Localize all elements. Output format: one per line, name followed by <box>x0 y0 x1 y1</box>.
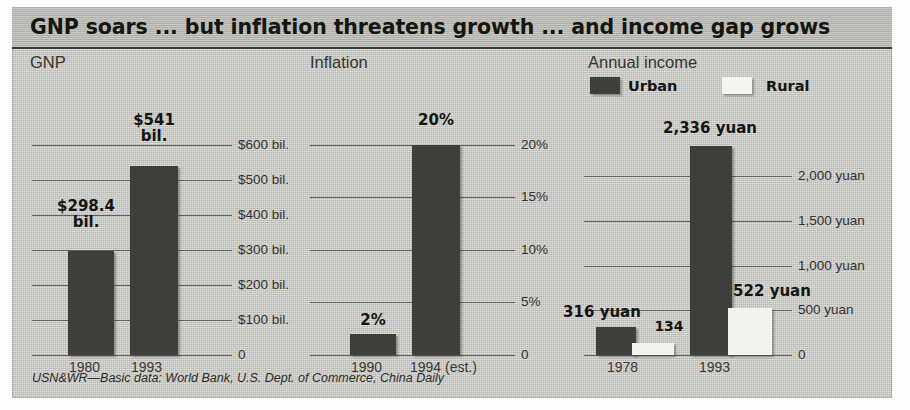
ticklabel-gnp-500: $500 bil. <box>238 172 289 187</box>
value-label-gnp-1993: $541 bil. <box>108 113 200 144</box>
infographic: GNP soars ... but inflation threatens gr… <box>0 0 910 410</box>
chart-inflation: Inflation 20% 15% 10% 5% 0 2% 20% 1990 <box>292 51 592 381</box>
bar-gnp-1980 <box>68 251 114 355</box>
ticklabel-income-2000: 2,000 yuan <box>798 168 865 183</box>
bar-income-1993-urban <box>690 146 732 355</box>
value-label-gnp-1980: $298.4 bil. <box>34 199 138 230</box>
value-label-gnp-1993-line2: bil. <box>141 127 168 145</box>
ticklabel-gnp-300: $300 bil. <box>238 242 289 257</box>
gridline-1500yuan <box>584 221 792 222</box>
gridline-1000yuan <box>584 266 792 267</box>
gridline-0pct <box>310 355 515 356</box>
source-credit: USN&WR—Basic data: World Bank, U.S. Dept… <box>32 371 444 385</box>
xlabel-income-1978: 1978 <box>607 359 638 375</box>
chart-inflation-plot: 20% 15% 10% 5% 0 2% 20% 1990 1994 (est.) <box>292 51 592 381</box>
bar-income-1993-rural <box>728 308 772 355</box>
ticklabel-gnp-100: $100 bil. <box>238 312 289 327</box>
chart-annual-income-plot: 2,000 yuan 1,500 yuan 1,000 yuan 500 yua… <box>572 51 892 381</box>
ticklabel-gnp-0: 0 <box>238 347 246 362</box>
ticklabel-inflation-0: 0 <box>521 347 529 362</box>
ticklabel-income-500: 500 yuan <box>798 302 854 317</box>
ticklabel-income-1500: 1,500 yuan <box>798 213 865 228</box>
chart-gnp-plot: $600 bil. $500 bil. $400 bil. $300 bil. … <box>12 51 302 381</box>
chart-annual-income: Annual income Urban Rural 2,000 yuan 1,5… <box>572 51 892 381</box>
value-label-income-1978-rural: 134 <box>646 319 692 334</box>
ticklabel-gnp-200: $200 bil. <box>238 277 289 292</box>
value-label-inflation-1990: 2% <box>350 313 396 329</box>
value-label-income-1978-urban: 316 yuan <box>556 305 648 321</box>
ticklabel-gnp-400: $400 bil. <box>238 207 289 222</box>
headline: GNP soars ... but inflation threatens gr… <box>30 15 880 39</box>
infographic-panel: GNP soars ... but inflation threatens gr… <box>12 7 892 398</box>
value-label-gnp-1980-line2: bil. <box>73 213 100 231</box>
bar-income-1978-rural <box>632 343 674 355</box>
gridline-0yuan <box>584 355 792 356</box>
ticklabel-inflation-20: 20% <box>521 137 548 152</box>
bar-gnp-1993 <box>130 166 178 355</box>
ticklabel-income-1000: 1,000 yuan <box>798 258 865 273</box>
ticklabel-inflation-5: 5% <box>521 294 541 309</box>
ticklabel-inflation-15: 15% <box>521 189 548 204</box>
gridline-600 <box>32 145 232 146</box>
bar-inflation-1994 <box>412 145 460 355</box>
value-label-income-1993-rural: 522 yuan <box>724 284 820 300</box>
ticklabel-gnp-600: $600 bil. <box>238 137 289 152</box>
bar-income-1978-urban <box>596 327 636 355</box>
chart-gnp: GNP $600 bil. $500 bil. $400 bil. $300 b… <box>12 51 302 381</box>
bar-inflation-1990 <box>350 334 396 355</box>
gridline-2000yuan <box>584 176 792 177</box>
xlabel-income-1993: 1993 <box>699 359 730 375</box>
gridline-0 <box>32 355 232 356</box>
value-label-inflation-1994: 20% <box>408 113 464 129</box>
headline-band: GNP soars ... but inflation threatens gr… <box>12 7 892 49</box>
value-label-income-1993-urban: 2,336 yuan <box>650 121 770 137</box>
ticklabel-income-0: 0 <box>798 347 806 362</box>
ticklabel-inflation-10: 10% <box>521 242 548 257</box>
